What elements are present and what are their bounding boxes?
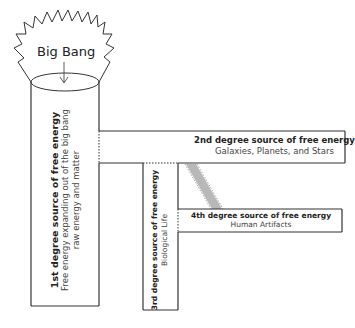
first-degree-title: 1st degree source of free energy xyxy=(49,109,60,291)
second-degree-line-1: Galaxies, Planets, and Stars xyxy=(194,146,355,157)
second-degree-label: 2nd degree source of free energy Galaxie… xyxy=(194,135,355,157)
third-degree-label: 3rd degree source of free energy Biologi… xyxy=(150,170,170,310)
first-degree-label: 1st degree source of free energy Free en… xyxy=(49,109,82,291)
first-degree-line-2: raw energy and matter xyxy=(71,109,82,291)
big-bang-label: Big Bang xyxy=(37,44,95,59)
connector-band xyxy=(186,164,222,209)
fourth-degree-label: 4th degree source of free energy Human A… xyxy=(182,211,340,229)
fourth-degree-title: 4th degree source of free energy xyxy=(182,211,340,220)
second-degree-title: 2nd degree source of free energy xyxy=(194,135,355,146)
first-degree-line-1: Free energy expanding out of the big ban… xyxy=(60,109,71,291)
third-degree-title: 3rd degree source of free energy xyxy=(150,170,160,310)
third-degree-line-1: Biological Life xyxy=(160,170,170,310)
fourth-degree-line-1: Human Artifacts xyxy=(182,220,340,229)
